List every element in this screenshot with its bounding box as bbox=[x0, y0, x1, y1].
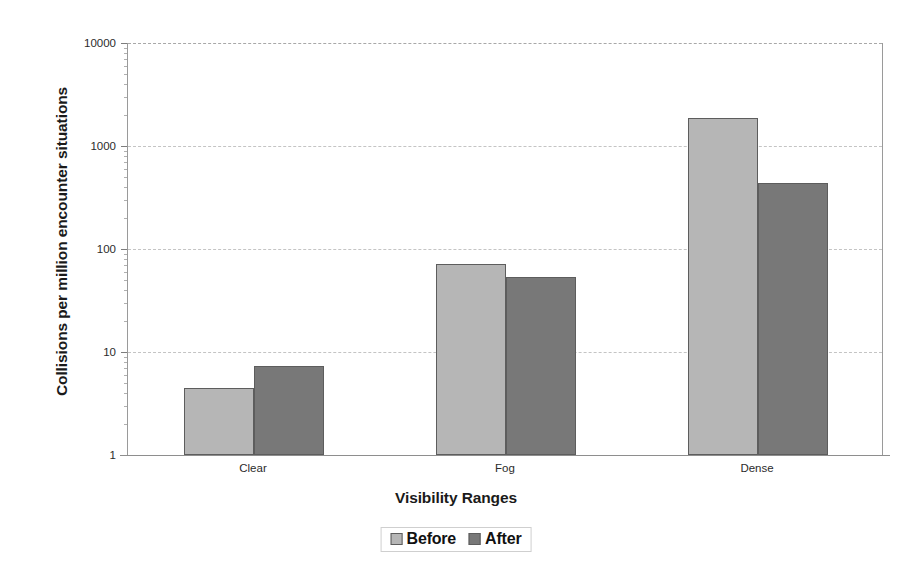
y-gridline bbox=[128, 43, 882, 44]
legend-swatch-after-icon bbox=[469, 533, 481, 545]
legend-label-before: Before bbox=[407, 530, 456, 548]
y-tick-label: 10 bbox=[56, 346, 116, 358]
y-axis-title: Collisions per million encounter situati… bbox=[53, 61, 72, 421]
bar-dense-before[interactable] bbox=[688, 118, 758, 455]
y-axis-line bbox=[127, 43, 128, 455]
bar-chart-figure: Collisions per million encounter situati… bbox=[0, 0, 912, 586]
y-gridline bbox=[128, 146, 882, 147]
legend-item-after[interactable]: After bbox=[469, 530, 521, 548]
bar-clear-before[interactable] bbox=[184, 388, 254, 455]
y-tick-label: 1 bbox=[56, 449, 116, 461]
legend-swatch-before-icon bbox=[391, 533, 403, 545]
chart-legend: Before After bbox=[381, 527, 532, 552]
plot-area bbox=[127, 43, 883, 455]
legend-item-before[interactable]: Before bbox=[391, 530, 456, 548]
x-axis-line bbox=[120, 455, 890, 456]
x-axis-title: Visibility Ranges bbox=[0, 489, 912, 507]
y-tick-label: 1000 bbox=[56, 140, 116, 152]
x-tick-label-clear: Clear bbox=[239, 462, 266, 474]
x-tick-label-fog: Fog bbox=[495, 462, 515, 474]
y-tick-label: 100 bbox=[56, 243, 116, 255]
legend-label-after: After bbox=[485, 530, 521, 548]
bar-dense-after[interactable] bbox=[758, 183, 828, 455]
bar-fog-after[interactable] bbox=[506, 277, 576, 455]
y-tick-label: 10000 bbox=[56, 37, 116, 49]
x-tick-label-dense: Dense bbox=[740, 462, 773, 474]
bar-fog-before[interactable] bbox=[436, 264, 506, 455]
bar-clear-after[interactable] bbox=[254, 366, 324, 455]
